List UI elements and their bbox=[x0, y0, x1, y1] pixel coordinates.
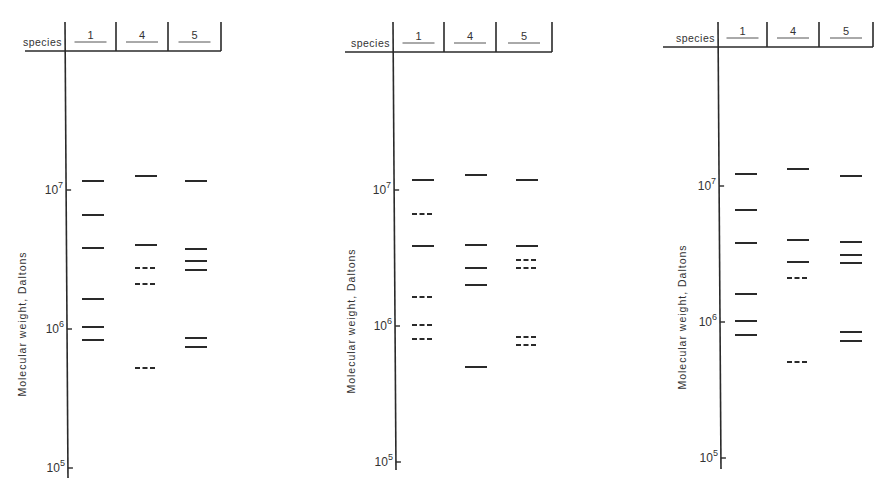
lane-label-5: 5 bbox=[521, 30, 527, 42]
lane-label-5: 5 bbox=[843, 25, 849, 37]
y-axis-line bbox=[65, 22, 68, 478]
y-tick-label: 106 bbox=[46, 319, 64, 336]
gel-panel-right: species145107106105Molecular weight, Dal… bbox=[663, 22, 873, 469]
y-axis-label: Molecular weight, Daltons bbox=[16, 251, 28, 396]
y-tick-label: 107 bbox=[45, 180, 63, 197]
species-header-label: species bbox=[23, 36, 62, 48]
y-tick-label: 105 bbox=[700, 448, 718, 465]
species-header-label: species bbox=[676, 32, 715, 44]
lane-label-1: 1 bbox=[87, 29, 93, 41]
lane-label-4: 4 bbox=[790, 25, 796, 37]
y-tick-label: 105 bbox=[375, 452, 393, 469]
gel-panel-left: species145107106105Molecular weight, Dal… bbox=[16, 22, 221, 478]
y-axis-line bbox=[718, 22, 721, 469]
species-header-label: species bbox=[351, 37, 390, 49]
y-tick-label: 107 bbox=[698, 176, 716, 193]
y-axis-label: Molecular weight, Daltons bbox=[676, 244, 688, 389]
gel-band-figure: species145107106105Molecular weight, Dal… bbox=[0, 0, 892, 489]
y-axis-label: Molecular weight, Daltons bbox=[345, 248, 357, 393]
lane-label-1: 1 bbox=[415, 30, 421, 42]
y-axis-line bbox=[393, 22, 396, 470]
y-tick-label: 107 bbox=[373, 180, 391, 197]
y-tick-label: 106 bbox=[699, 312, 717, 329]
lane-label-1: 1 bbox=[739, 25, 745, 37]
lane-label-4: 4 bbox=[467, 30, 473, 42]
lane-label-5: 5 bbox=[191, 29, 197, 41]
gel-panel-middle: species145107106105Molecular weight, Dal… bbox=[345, 22, 552, 470]
lane-label-4: 4 bbox=[139, 29, 145, 41]
y-tick-label: 105 bbox=[47, 458, 65, 475]
y-tick-label: 106 bbox=[374, 316, 392, 333]
